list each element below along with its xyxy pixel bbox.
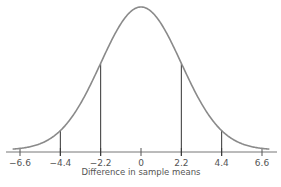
x-tick-label: −6.6 [9, 158, 31, 168]
density-curve [13, 7, 270, 149]
x-tick-label: 4.4 [215, 158, 230, 168]
sd-lines [60, 63, 221, 156]
x-axis-label: Difference in sample means [81, 167, 201, 177]
x-tick-label: −4.4 [49, 158, 71, 168]
x-tick-label: 6.6 [255, 158, 270, 168]
normal-curve-chart: −6.6−4.4−2.202.24.46.6 Difference in sam… [0, 0, 281, 187]
